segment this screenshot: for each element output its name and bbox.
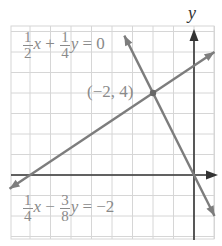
fraction: 38 [60, 193, 70, 224]
variable: x [34, 34, 42, 53]
fraction: 14 [60, 30, 70, 61]
intersection-point [150, 90, 156, 96]
denominator: 4 [23, 209, 33, 224]
rhs: = 0 [82, 34, 104, 53]
equation-1-label: 12x + 14y = 0 [22, 30, 105, 61]
fraction: 14 [23, 193, 33, 224]
numerator: 1 [23, 30, 33, 46]
y-axis-label: y [188, 3, 196, 24]
point-label: (−2, 4) [87, 83, 133, 100]
denominator: 2 [23, 46, 33, 61]
fraction: 12 [23, 30, 33, 61]
denominator: 4 [60, 46, 70, 61]
line-arrow-icon [124, 36, 132, 47]
y-axis-arrow-icon [190, 29, 199, 41]
numerator: 3 [60, 193, 70, 209]
x-axis-arrow-icon [206, 171, 218, 180]
variable: x [34, 197, 42, 216]
equation-line-1 [124, 36, 214, 216]
denominator: 8 [60, 209, 70, 224]
equation-2-label: 14x − 38y = −2 [22, 193, 114, 224]
operator: + [45, 34, 55, 53]
numerator: 1 [23, 193, 33, 209]
variable: y [71, 34, 79, 53]
line-arrow-icon [204, 52, 215, 61]
numerator: 1 [60, 30, 70, 46]
line-arrow-icon [206, 205, 214, 216]
variable: y [71, 197, 79, 216]
operator: − [45, 197, 55, 216]
rhs: = −2 [82, 197, 114, 216]
